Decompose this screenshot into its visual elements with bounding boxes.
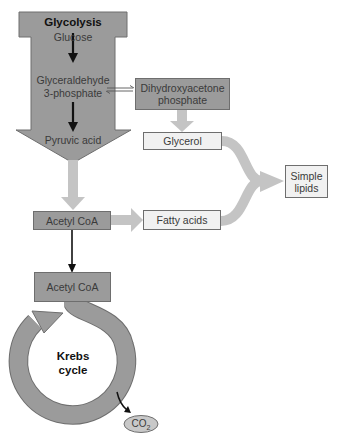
glucose-label: Glucose [19,31,127,44]
glycerol-box: Glycerol [143,132,222,150]
acetylcoa-down-arrow [68,230,76,273]
krebs-label-line2: cycle [43,364,103,377]
co2-label: CO2 [124,417,158,434]
krebs-label-line1: Krebs [43,350,103,363]
co2-subscript: 2 [147,424,151,431]
pyruvate-to-acetylcoa-connector [61,160,85,210]
simple-lipids-box: Simple lipids [285,165,328,198]
simple-lipids-line2: lipids [295,182,319,194]
g3p-label-line1: Glyceraldehyde [19,74,127,87]
lipid-merge-arrowhead [260,171,284,192]
dhap-label-line1: Dihydroxyacetone [140,82,224,94]
lipid-merge-connector [221,141,262,221]
acetyl-coa-box-top: Acetyl CoA [33,211,111,230]
dhap-to-glycerol-connector [170,110,194,132]
fatty-acids-box: Fatty acids [143,210,221,230]
dhap-box: Dihydroxyacetone phosphate [135,78,230,110]
glycolysis-title: Glycolysis [19,16,127,29]
simple-lipids-line1: Simple [290,170,322,182]
g3p-label-line2: 3-phosphate [19,87,127,100]
acetyl-coa-box-bottom: Acetyl CoA [34,272,111,302]
dhap-label-line2: phosphate [158,94,207,106]
pyruvic-acid-label: Pyruvic acid [19,134,127,147]
co2-main: CO [132,418,147,429]
acetylcoa-to-fattyacids-connector [111,208,143,232]
